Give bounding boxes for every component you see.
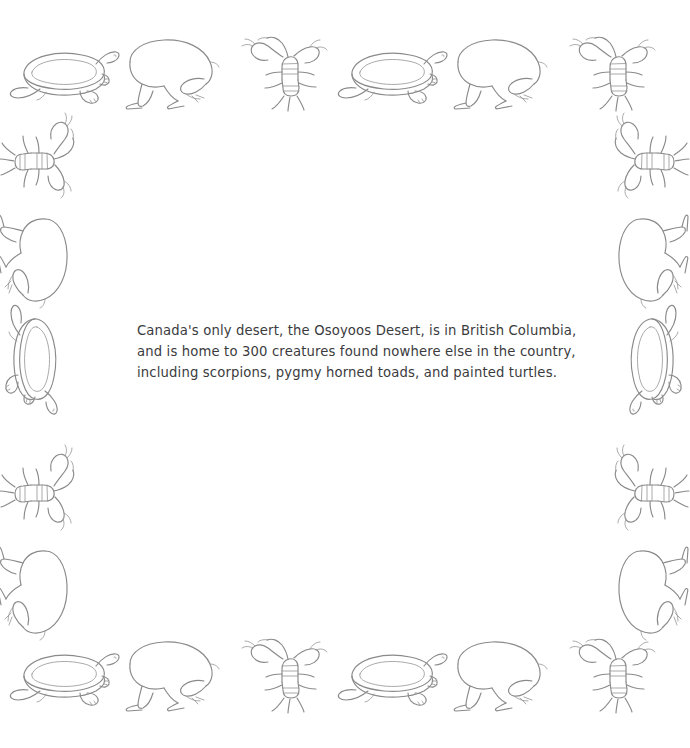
pygmy-horned-toad-icon: [615, 545, 689, 649]
scorpion-icon: [560, 638, 670, 714]
fact-line-1: Canada's only desert, the Osoyoos Desert…: [137, 320, 529, 341]
scorpion-icon: [232, 36, 342, 112]
pygmy-horned-toad-icon: [0, 545, 71, 649]
scorpion-icon: [614, 435, 690, 545]
pygmy-horned-toad-icon: [0, 213, 71, 317]
pygmy-horned-toad-icon: [124, 638, 228, 712]
painted-turtle-icon: [334, 636, 450, 714]
pygmy-horned-toad-icon: [452, 36, 556, 110]
scorpion-icon: [0, 103, 75, 213]
painted-turtle-icon: [612, 301, 690, 417]
pygmy-horned-toad-icon: [615, 213, 689, 317]
scorpion-icon: [232, 638, 342, 714]
scorpion-icon: [614, 103, 690, 213]
painted-turtle-icon: [0, 301, 75, 417]
painted-turtle-icon: [6, 636, 122, 714]
painted-turtle-icon: [334, 34, 450, 112]
fact-line-2: and is home to 300 creatures found nowhe…: [137, 341, 529, 362]
painted-turtle-icon: [6, 34, 122, 112]
scorpion-icon: [0, 435, 75, 545]
fact-line-3: including scorpions, pygmy horned toads,…: [137, 362, 529, 383]
pygmy-horned-toad-icon: [124, 36, 228, 110]
scorpion-icon: [560, 36, 670, 112]
pygmy-horned-toad-icon: [452, 638, 556, 712]
fact-text-block: Canada's only desert, the Osoyoos Desert…: [137, 320, 529, 383]
